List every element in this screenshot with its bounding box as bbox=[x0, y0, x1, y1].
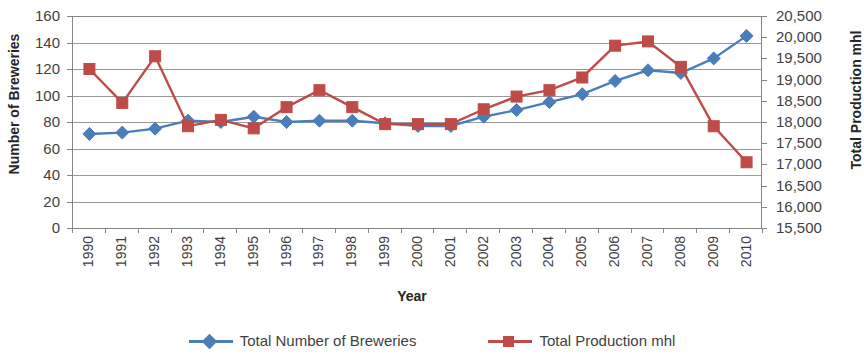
x-axis-tick-label: 1993 bbox=[180, 236, 194, 267]
data-point-marker bbox=[478, 104, 489, 115]
x-axis-tick-label: 2000 bbox=[410, 236, 424, 267]
data-point-marker bbox=[346, 114, 359, 127]
x-axis-tickmark bbox=[466, 228, 467, 233]
y-axis-left-tick-label: 40 bbox=[8, 167, 60, 182]
y-axis-left-tick-label: 160 bbox=[8, 8, 60, 23]
x-axis-tick-label: 2009 bbox=[706, 236, 720, 267]
x-axis-tickmark bbox=[565, 228, 566, 233]
legend-diamond-icon bbox=[189, 334, 233, 348]
x-axis-tick-label: 1994 bbox=[213, 236, 227, 267]
x-axis-tick-label: 2010 bbox=[739, 236, 753, 267]
data-point-marker bbox=[380, 119, 391, 130]
data-point-marker bbox=[413, 119, 424, 130]
x-axis-tick-label: 1998 bbox=[344, 236, 358, 267]
x-axis-tickmark bbox=[631, 228, 632, 233]
y-axis-left-tick-label: 0 bbox=[8, 220, 60, 235]
series-line bbox=[89, 41, 746, 162]
y-axis-right-tick-label: 18,000 bbox=[776, 114, 846, 129]
data-point-marker bbox=[84, 64, 95, 75]
data-point-marker bbox=[708, 121, 719, 132]
legend-item[interactable]: Total Production mhl bbox=[488, 332, 675, 349]
x-axis-tickmark bbox=[302, 228, 303, 233]
y-axis-right-tick-label: 20,500 bbox=[776, 8, 846, 23]
data-point-marker bbox=[577, 72, 588, 83]
x-axis-tick-label: 2008 bbox=[673, 236, 687, 267]
data-point-marker bbox=[643, 36, 654, 47]
data-point-marker bbox=[675, 61, 686, 72]
x-axis-tick-label: 2005 bbox=[574, 236, 588, 267]
y-axis-right-tick-label: 17,500 bbox=[776, 135, 846, 150]
data-point-marker bbox=[445, 119, 456, 130]
y-axis-left-tick-label: 140 bbox=[8, 35, 60, 50]
data-point-marker bbox=[511, 91, 522, 102]
x-axis-line bbox=[72, 228, 763, 229]
data-point-marker bbox=[610, 40, 621, 51]
data-point-marker bbox=[150, 51, 161, 62]
data-point-marker bbox=[314, 85, 325, 96]
data-point-marker bbox=[183, 121, 194, 132]
data-point-marker bbox=[117, 97, 128, 108]
x-axis-tick-label: 2002 bbox=[476, 236, 490, 267]
x-axis-tickmark bbox=[532, 228, 533, 233]
legend-item[interactable]: Total Number of Breweries bbox=[189, 332, 417, 349]
data-point-marker bbox=[347, 102, 358, 113]
series-lines bbox=[73, 16, 763, 228]
x-axis-tick-label: 1991 bbox=[114, 236, 128, 267]
x-axis-tick-label: 2007 bbox=[640, 236, 654, 267]
y-axis-right-tick-label: 19,000 bbox=[776, 72, 846, 87]
data-point-marker bbox=[280, 116, 293, 129]
x-axis-tickmark bbox=[433, 228, 434, 233]
x-axis-tickmark bbox=[368, 228, 369, 233]
y-axis-right-tick-label: 18,500 bbox=[776, 93, 846, 108]
x-axis-tick-label: 2001 bbox=[443, 236, 457, 267]
brewery-production-chart: Number of Breweries Total Production mhl… bbox=[0, 0, 864, 358]
data-point-marker bbox=[609, 74, 622, 87]
y-axis-right-tick-label: 16,000 bbox=[776, 199, 846, 214]
y-axis-left-tick-label: 20 bbox=[8, 194, 60, 209]
x-axis-title: Year bbox=[352, 288, 472, 304]
legend-square-icon bbox=[488, 334, 532, 348]
x-axis-tickmark bbox=[236, 228, 237, 233]
y-axis-right-tick-label: 20,000 bbox=[776, 29, 846, 44]
x-axis-tickmark bbox=[105, 228, 106, 233]
y-axis-left-tick-label: 60 bbox=[8, 141, 60, 156]
legend-label: Total Number of Breweries bbox=[240, 332, 417, 349]
y-axis-left-tick-label: 80 bbox=[8, 114, 60, 129]
y-axis-right-tick-label: 15,500 bbox=[776, 220, 846, 235]
x-axis-tickmark bbox=[762, 228, 763, 233]
y-axis-right-tick-label: 17,000 bbox=[776, 156, 846, 171]
x-axis-tickmark bbox=[335, 228, 336, 233]
y-axis-right-tick-label: 19,500 bbox=[776, 50, 846, 65]
data-point-marker bbox=[281, 102, 292, 113]
data-point-marker bbox=[116, 126, 129, 139]
x-axis-tick-label: 2003 bbox=[509, 236, 523, 267]
x-axis-tickmark bbox=[203, 228, 204, 233]
x-axis-tick-label: 1999 bbox=[377, 236, 391, 267]
x-axis-tickmark bbox=[269, 228, 270, 233]
data-point-marker bbox=[544, 85, 555, 96]
x-axis-tick-label: 1992 bbox=[147, 236, 161, 267]
data-point-marker bbox=[576, 88, 589, 101]
chart-legend: Total Number of BreweriesTotal Productio… bbox=[0, 332, 864, 349]
x-axis-tickmark bbox=[663, 228, 664, 233]
x-axis-tickmark bbox=[499, 228, 500, 233]
x-axis-tickmark bbox=[138, 228, 139, 233]
y-axis-right-title: Total Production mhl bbox=[848, 0, 864, 200]
x-axis-tickmark bbox=[171, 228, 172, 233]
data-point-marker bbox=[248, 123, 259, 134]
data-point-marker bbox=[510, 104, 523, 117]
y-axis-right-tick-label: 16,500 bbox=[776, 178, 846, 193]
x-axis-tickmark bbox=[401, 228, 402, 233]
data-point-marker bbox=[247, 110, 260, 123]
data-point-marker bbox=[83, 127, 96, 140]
data-point-marker bbox=[215, 114, 226, 125]
data-point-marker bbox=[741, 157, 752, 168]
x-axis-tick-label: 2006 bbox=[607, 236, 621, 267]
x-axis-tick-label: 1995 bbox=[246, 236, 260, 267]
y-axis-left-tick-label: 120 bbox=[8, 61, 60, 76]
data-point-marker bbox=[543, 96, 556, 109]
x-axis-tick-label: 1997 bbox=[311, 236, 325, 267]
data-point-marker bbox=[149, 122, 162, 135]
x-axis-tick-label: 1990 bbox=[81, 236, 95, 267]
plot-area bbox=[72, 16, 762, 228]
